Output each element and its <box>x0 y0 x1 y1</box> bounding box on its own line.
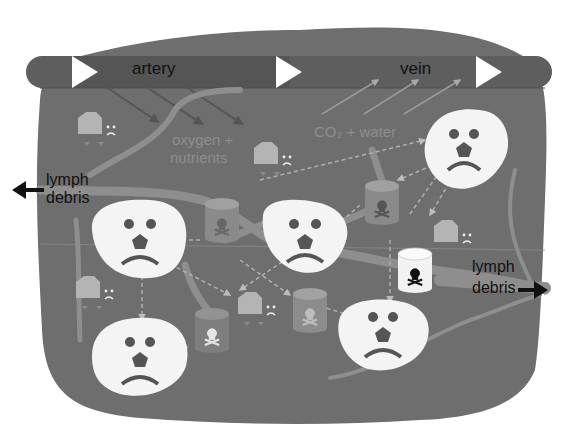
toxin-canister-icon <box>293 288 327 333</box>
tissue-diagram: oxygen +nutrients CO₂ + water <box>0 0 568 437</box>
diagram-canvas: oxygen +nutrients CO₂ + water <box>0 0 568 437</box>
lymph-left-label-line1: lymph <box>46 172 89 188</box>
toxin-canister-icon <box>195 308 229 353</box>
lymph-right-label-line1: lymph <box>472 259 515 275</box>
lymph-left-label-line2: debris <box>46 190 90 206</box>
artery-label: artery <box>132 60 175 77</box>
co2-water-label: CO₂ + water <box>314 123 396 140</box>
lymph-right-label-line2: debris <box>472 280 516 296</box>
vein-label: vein <box>400 60 431 77</box>
toxin-canister-icon <box>365 180 399 225</box>
toxin-canister-icon <box>205 198 239 243</box>
toxin-canister-icon <box>398 248 432 293</box>
oxygen-nutrients-label: oxygen +nutrients <box>170 131 234 166</box>
